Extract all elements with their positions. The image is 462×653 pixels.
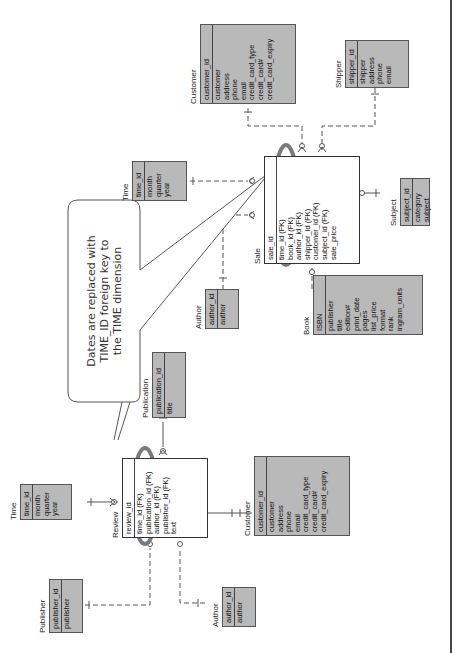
primary-key: author_id xyxy=(223,588,235,626)
attribute: author xyxy=(219,293,228,325)
attribute: email xyxy=(385,44,394,84)
primary-key: publication_id xyxy=(153,353,165,417)
entity-title: Book xyxy=(302,317,311,335)
attribute: ingram_units xyxy=(396,279,405,331)
entity-title: Sale xyxy=(253,248,262,264)
primary-key: author_id xyxy=(206,290,218,328)
primary-key: subject_id xyxy=(401,179,413,225)
attribute: publisher xyxy=(63,583,72,629)
primary-key: customer_id xyxy=(201,25,213,103)
attribute: year xyxy=(163,165,172,197)
entity-title: Customer xyxy=(243,501,252,536)
attribute: sale_price xyxy=(330,160,339,260)
entity-title: Time xyxy=(121,184,130,201)
entity-title: Review xyxy=(111,512,120,538)
primary-key: customer_id xyxy=(255,457,267,535)
attribute: text xyxy=(170,462,179,534)
attribute: subject xyxy=(423,182,432,222)
primary-key: time_id xyxy=(21,485,33,519)
primary-key: sale_id xyxy=(265,157,277,263)
entity-title: Publisher xyxy=(38,600,47,633)
primary-key: ISBN xyxy=(314,276,326,334)
entity-title: Author xyxy=(211,603,220,627)
primary-key: shipper_id xyxy=(346,41,358,87)
entity-title: Shipper xyxy=(334,60,343,88)
primary-key: publisher_id xyxy=(50,580,62,632)
entity-title: Author xyxy=(194,305,203,329)
attribute: credit_card_expiry xyxy=(266,28,275,100)
entity-title: Subject xyxy=(389,199,398,226)
callout-note: Dates are replaced with TIME_ID foreign … xyxy=(85,235,124,366)
entity-title: Publication xyxy=(141,379,150,418)
entity-title: Customer xyxy=(189,69,198,104)
attribute: title xyxy=(166,356,175,414)
attribute: credit_card_expiry xyxy=(320,460,329,532)
primary-key: review_id xyxy=(123,459,135,537)
primary-key: time_id xyxy=(133,162,145,200)
attribute: author xyxy=(236,591,245,623)
entity-title: Time xyxy=(9,503,18,520)
attribute: year xyxy=(51,488,60,516)
